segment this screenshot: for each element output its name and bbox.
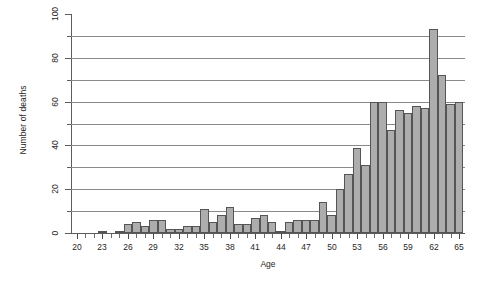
bar-age-34 [192, 226, 200, 233]
x-tick-53 [357, 234, 358, 239]
bar-age-46 [293, 220, 301, 233]
x-tick-27 [136, 234, 137, 238]
x-axis-ticks-group [71, 234, 465, 239]
y-tick-label-text: 0 [51, 225, 60, 241]
x-tick-24 [111, 234, 112, 238]
x-tick-38 [230, 234, 231, 239]
x-tick-56 [383, 234, 384, 239]
bar-age-52 [344, 174, 352, 233]
x-tick-label-44: 44 [269, 241, 293, 253]
x-tick-label-35: 35 [192, 241, 216, 253]
x-tick-62 [434, 234, 435, 239]
x-tick-60 [417, 234, 418, 238]
bar-age-37 [217, 215, 225, 233]
x-axis-labels-group: 20232629323538414447505356596265 [71, 241, 465, 255]
bar-age-58 [395, 110, 403, 233]
bar-age-51 [336, 189, 344, 233]
x-tick-label-50: 50 [320, 241, 344, 253]
x-tick-35 [204, 234, 205, 239]
x-tick-55 [374, 234, 375, 238]
bar-age-56 [378, 102, 386, 233]
x-tick-29 [153, 234, 154, 239]
x-tick-57 [391, 234, 392, 238]
y-axis-title: Number of deaths [14, 0, 32, 240]
x-tick-34 [196, 234, 197, 238]
x-tick-61 [425, 234, 426, 238]
bar-age-50 [327, 215, 335, 233]
y-tick-label-text: 80 [51, 50, 60, 66]
x-tick-54 [366, 234, 367, 238]
bar-age-55 [370, 102, 378, 233]
x-tick-33 [187, 234, 188, 238]
x-tick-37 [221, 234, 222, 238]
y-tick-label-text: 60 [51, 94, 60, 110]
bar-age-53 [353, 148, 361, 233]
x-tick-label-23: 23 [90, 241, 114, 253]
x-tick-39 [238, 234, 239, 238]
x-tick-52 [349, 234, 350, 238]
x-tick-45 [289, 234, 290, 238]
bar-age-36 [209, 222, 217, 233]
x-axis-title: Age [71, 259, 465, 269]
x-tick-64 [451, 234, 452, 238]
bar-age-44 [276, 231, 284, 233]
bar-age-54 [361, 165, 369, 233]
bar-age-49 [319, 202, 327, 233]
x-tick-23 [102, 234, 103, 239]
x-tick-63 [442, 234, 443, 238]
bar-age-41 [251, 218, 259, 233]
x-tick-36 [213, 234, 214, 238]
bar-age-33 [183, 226, 191, 233]
y-axis-title-text: Number of deaths [18, 85, 28, 154]
bar-age-27 [132, 222, 140, 233]
x-tick-40 [247, 234, 248, 238]
x-tick-49 [323, 234, 324, 238]
x-tick-43 [272, 234, 273, 238]
bar-age-61 [421, 108, 429, 233]
x-tick-label-62: 62 [422, 241, 446, 253]
bar-age-60 [412, 106, 420, 233]
x-tick-58 [400, 234, 401, 238]
bar-age-40 [243, 224, 251, 233]
histogram-figure: Number of deaths 020406080100 2023262932… [0, 0, 486, 287]
x-tick-32 [179, 234, 180, 239]
x-tick-label-20: 20 [65, 241, 89, 253]
bar-age-30 [158, 220, 166, 233]
y-tick-label-text: 40 [51, 137, 60, 153]
x-tick-22 [94, 234, 95, 238]
x-tick-59 [408, 234, 409, 239]
bar-age-28 [141, 226, 149, 233]
x-tick-65 [459, 234, 460, 239]
bar-age-32 [175, 229, 183, 233]
bar-age-45 [285, 222, 293, 233]
x-tick-label-29: 29 [141, 241, 165, 253]
x-tick-51 [340, 234, 341, 238]
x-tick-44 [281, 234, 282, 239]
x-tick-26 [128, 234, 129, 239]
bar-age-63 [438, 75, 446, 233]
y-tick-label-text: 100 [51, 6, 60, 22]
x-tick-label-32: 32 [167, 241, 191, 253]
bar-age-38 [226, 207, 234, 233]
x-tick-30 [162, 234, 163, 238]
x-tick-label-26: 26 [116, 241, 140, 253]
bar-age-23 [98, 231, 106, 233]
bar-age-48 [310, 220, 318, 233]
x-tick-20 [77, 234, 78, 239]
x-tick-42 [264, 234, 265, 238]
x-tick-label-56: 56 [371, 241, 395, 253]
bar-age-39 [234, 224, 242, 233]
x-tick-50 [332, 234, 333, 239]
bar-age-25 [115, 231, 123, 233]
x-tick-21 [85, 234, 86, 238]
bar-age-59 [404, 113, 412, 233]
bar-age-31 [166, 229, 174, 233]
x-tick-48 [315, 234, 316, 238]
bar-age-43 [268, 222, 276, 233]
bar-age-26 [124, 224, 132, 233]
x-tick-label-47: 47 [294, 241, 318, 253]
bar-age-47 [302, 220, 310, 233]
x-tick-label-41: 41 [243, 241, 267, 253]
x-tick-label-53: 53 [345, 241, 369, 253]
bar-age-29 [149, 220, 157, 233]
